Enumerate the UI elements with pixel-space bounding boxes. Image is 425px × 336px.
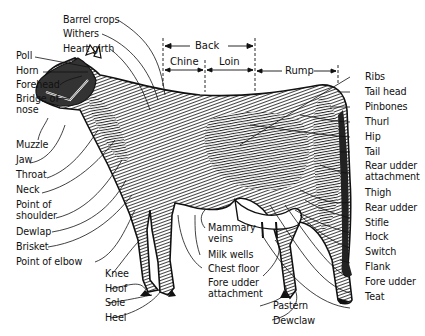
label-rear-udder-attachment: Rear udder attachment bbox=[365, 161, 420, 182]
label-dewlap: Dewlap bbox=[16, 227, 51, 238]
label-rear-udder: Rear udder bbox=[365, 203, 417, 214]
label-thigh: Thigh bbox=[365, 188, 391, 199]
label-hoof: Hoof bbox=[105, 284, 127, 295]
label-hip: Hip bbox=[365, 132, 381, 143]
region-loin: Loin bbox=[219, 56, 240, 67]
label-fore-udder-attachment: Fore udder attachment bbox=[208, 278, 263, 299]
label-pastern: Pastern bbox=[273, 301, 308, 312]
region-chine: Chine bbox=[170, 56, 199, 67]
label-heart-girth: Heart girth bbox=[63, 44, 114, 55]
label-jaw: Jaw bbox=[16, 155, 32, 166]
label-horn: Horn bbox=[16, 66, 39, 77]
label-mammary-veins: Mammary veins bbox=[208, 223, 256, 244]
label-forehead: Forehead bbox=[16, 80, 60, 91]
label-bridge-of-nose: Bridge of nose bbox=[16, 94, 59, 115]
label-flank: Flank bbox=[365, 262, 390, 273]
region-back: Back bbox=[195, 40, 219, 51]
cow-body bbox=[36, 45, 352, 304]
label-poll: Poll bbox=[16, 51, 32, 62]
label-chest-floor: Chest floor bbox=[208, 264, 259, 275]
label-neck: Neck bbox=[16, 185, 40, 196]
label-fore-udder: Fore udder bbox=[365, 277, 416, 288]
label-teat: Teat bbox=[365, 292, 384, 303]
label-barrel-crops: Barrel crops bbox=[63, 15, 119, 26]
label-pinbones: Pinbones bbox=[365, 102, 407, 113]
label-tail-head: Tail head bbox=[365, 87, 407, 98]
label-switch: Switch bbox=[365, 247, 396, 258]
label-withers: Withers bbox=[63, 29, 99, 40]
label-muzzle: Muzzle bbox=[16, 140, 48, 151]
label-ribs: Ribs bbox=[365, 72, 385, 83]
label-milk-wells: Milk wells bbox=[208, 250, 253, 261]
label-brisket: Brisket bbox=[16, 242, 48, 253]
label-throat: Throat bbox=[16, 170, 47, 181]
label-sole: Sole bbox=[105, 298, 125, 309]
label-hock: Hock bbox=[365, 232, 389, 243]
label-stifle: Stifle bbox=[365, 218, 389, 229]
label-heel: Heel bbox=[105, 313, 126, 324]
label-thurl: Thurl bbox=[365, 117, 389, 128]
label-dewclaw: Dewclaw bbox=[273, 316, 315, 327]
label-point-of-shoulder: Point of shoulder bbox=[16, 200, 57, 221]
label-point-of-elbow: Point of elbow bbox=[16, 257, 82, 268]
label-tail: Tail bbox=[365, 147, 380, 158]
label-knee: Knee bbox=[105, 269, 129, 280]
region-rump: Rump bbox=[285, 65, 314, 76]
